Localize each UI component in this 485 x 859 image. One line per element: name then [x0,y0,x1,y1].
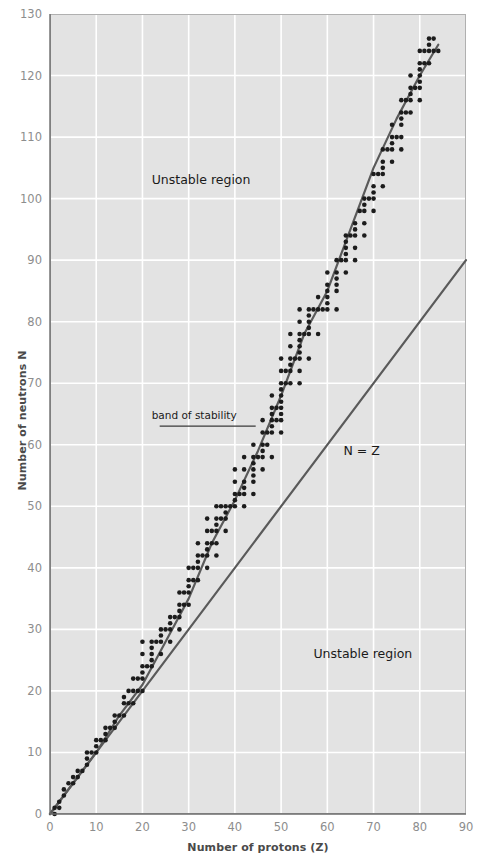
data-point [334,289,339,294]
annotation-unstable-region-lower: Unstable region [313,646,412,661]
data-point [223,529,228,534]
data-point [112,719,117,724]
y-tick-label: 50 [8,499,42,513]
data-point [381,184,386,189]
data-point [297,350,302,355]
y-tick-label: 120 [8,69,42,83]
data-point [131,676,136,681]
data-point [344,258,349,263]
data-point [316,332,321,337]
data-point [159,627,164,632]
data-point [325,301,330,306]
data-point [339,258,344,263]
data-point [214,522,219,527]
data-point [307,319,312,324]
data-point [320,307,325,312]
data-point [417,98,422,103]
data-point [191,578,196,583]
data-point [71,781,76,786]
data-point [112,726,117,731]
data-point [182,590,187,595]
data-point [390,135,395,140]
data-point [251,473,256,478]
data-point [108,726,113,731]
data-point [219,516,224,521]
data-point [427,42,432,47]
data-point [233,492,238,497]
annotation-band-of-stability: band of stability [152,409,237,421]
x-axis-title: Number of protons (Z) [50,841,466,854]
data-point [122,713,127,718]
y-tick-label: 80 [8,315,42,329]
data-point [417,86,422,91]
data-point [399,147,404,152]
x-tick-label: 40 [228,820,243,834]
data-point [196,578,201,583]
data-point [283,381,288,386]
data-point [103,726,108,731]
data-point [279,381,284,386]
data-point [85,762,90,767]
data-point [196,559,201,564]
y-tick-label: 10 [8,745,42,759]
x-tick-label: 10 [89,820,104,834]
data-point [279,430,284,435]
data-point [334,270,339,275]
data-point [302,332,307,337]
data-point [399,135,404,140]
data-point [362,202,367,207]
data-point [371,172,376,177]
data-point [274,406,279,411]
data-point [242,504,247,509]
data-point [149,639,154,644]
data-point [399,122,404,127]
data-point [390,159,395,164]
data-point [260,418,265,423]
x-tick-label: 20 [135,820,150,834]
data-point [427,61,432,66]
data-point [353,227,358,232]
data-point [279,356,284,361]
data-point [362,233,367,238]
data-point [140,689,145,694]
data-point [325,307,330,312]
data-point [80,769,85,774]
data-point [297,319,302,324]
data-point [408,92,413,97]
data-point [325,282,330,287]
y-tick-label: 60 [8,438,42,452]
data-point [270,424,275,429]
data-point [223,504,228,509]
data-point [251,442,256,447]
data-point [431,49,436,54]
data-point [260,455,265,460]
data-point [196,541,201,546]
data-point [177,609,182,614]
data-point [126,701,131,706]
data-point [394,135,399,140]
data-point [163,627,168,632]
data-point [214,516,219,521]
data-point [159,652,164,657]
y-tick-label: 40 [8,561,42,575]
data-point [265,442,270,447]
data-point [223,510,228,515]
data-point [404,110,409,115]
data-point [422,61,427,66]
data-point [279,418,284,423]
data-point [353,233,358,238]
data-point [149,658,154,663]
data-point [219,504,224,509]
data-point [260,430,265,435]
plot-background [50,14,466,814]
data-point [242,486,247,491]
data-point [149,652,154,657]
data-point [62,787,67,792]
data-point [233,467,238,472]
data-point [436,49,441,54]
data-point [205,553,210,558]
data-point [66,781,71,786]
y-tick-label: 30 [8,622,42,636]
data-point [297,307,302,312]
data-point [168,639,173,644]
